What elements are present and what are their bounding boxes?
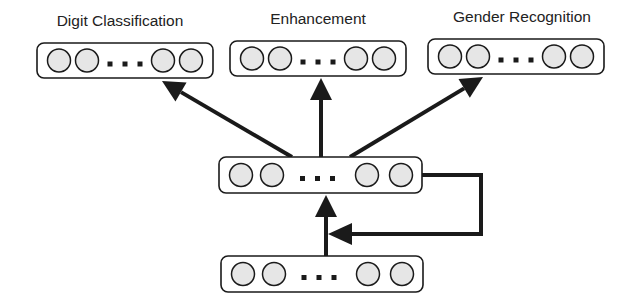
ellipsis-dot — [300, 176, 305, 181]
neuron-node — [571, 45, 594, 68]
ellipsis-dot — [108, 62, 113, 67]
ellipsis-dot — [499, 58, 504, 63]
ellipsis-dot — [123, 62, 128, 67]
task-label: Digit Classification — [57, 12, 184, 30]
ellipsis-dot — [301, 60, 306, 65]
neuron-node — [391, 263, 414, 286]
neuron-node — [543, 45, 566, 68]
neuron-node — [373, 47, 396, 70]
neuron-node — [439, 45, 462, 68]
neuron-node — [261, 164, 284, 187]
ellipsis-dot — [514, 58, 519, 63]
arrow-input-to-hidden-head — [315, 195, 337, 217]
arrow-to-digit-classification-shaft — [181, 92, 292, 157]
recurrent-loop-arrowhead — [328, 223, 352, 245]
neuron-node — [180, 49, 203, 72]
task-label: Enhancement — [270, 10, 366, 28]
ellipsis-dot — [138, 62, 143, 67]
neuron-node — [152, 49, 175, 72]
neuron-node — [232, 263, 255, 286]
task-label: Gender Recognition — [453, 8, 591, 26]
neuron-node — [390, 164, 413, 187]
ellipsis-dot — [315, 176, 320, 181]
ellipsis-dot — [316, 60, 321, 65]
arrow-to-enhancement-head — [310, 78, 332, 100]
ellipsis-dot — [331, 60, 336, 65]
neuron-node — [356, 164, 379, 187]
diagram-canvas — [0, 0, 639, 307]
neuron-node — [467, 45, 490, 68]
ellipsis-dot — [330, 176, 335, 181]
output-layer-2 — [428, 39, 604, 74]
output-layer-0 — [37, 43, 213, 78]
ellipsis-dot — [317, 275, 322, 280]
neuron-node — [263, 263, 286, 286]
output-layer-1 — [230, 41, 406, 76]
neuron-node — [76, 49, 99, 72]
hidden-layer — [219, 157, 422, 193]
input-layer — [221, 256, 423, 292]
neuron-node — [241, 47, 264, 70]
ellipsis-dot — [302, 275, 307, 280]
neuron-node — [345, 47, 368, 70]
neuron-node — [269, 47, 292, 70]
ellipsis-dot — [529, 58, 534, 63]
neuron-node — [357, 263, 380, 286]
neuron-node — [230, 164, 253, 187]
arrow-to-gender-recognition-shaft — [350, 88, 464, 157]
neuron-node — [48, 49, 71, 72]
ellipsis-dot — [332, 275, 337, 280]
